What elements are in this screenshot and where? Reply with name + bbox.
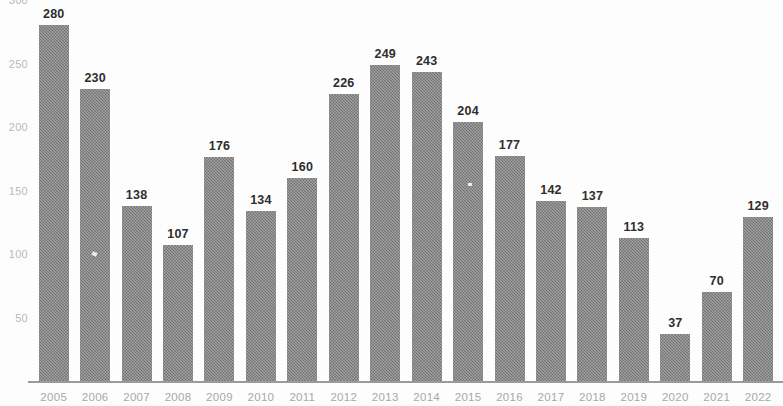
bar-slot: 160 (282, 0, 323, 381)
x-axis-tick: 2015 (447, 387, 488, 406)
bar (743, 217, 773, 381)
x-axis-tick-label: 2020 (662, 391, 689, 403)
bar-value-label: 37 (668, 317, 682, 330)
bar-slot: 204 (447, 0, 488, 381)
bar-series: 2802301381071761341602262492432041771421… (33, 0, 779, 381)
x-axis-tick: 2011 (282, 387, 323, 406)
bar-value-label: 138 (126, 189, 147, 202)
bar-value-label: 243 (416, 55, 437, 68)
bar-value-label: 70 (710, 275, 724, 288)
x-axis-tick: 2017 (530, 387, 571, 406)
x-axis-tick: 2007 (116, 387, 157, 406)
x-axis-tick: 2016 (489, 387, 530, 406)
y-axis-tick-label: 300 (9, 0, 28, 6)
bar-slot: 177 (489, 0, 530, 381)
bar-value-label: 176 (209, 140, 230, 153)
bar-value-label: 160 (292, 161, 313, 174)
x-axis-tick: 2021 (696, 387, 737, 406)
bar-value-label: 134 (250, 194, 271, 207)
bar-value-label: 226 (333, 77, 354, 90)
bar-slot: 243 (406, 0, 447, 381)
bar-chart: 30025020015010050 2802301381071761341602… (0, 0, 783, 406)
bar (122, 206, 152, 381)
bar-value-label: 280 (43, 8, 64, 21)
bar-slot: 138 (116, 0, 157, 381)
bar-value-label: 129 (747, 200, 768, 213)
y-axis: 30025020015010050 (0, 0, 32, 406)
x-axis-tick: 2005 (33, 387, 74, 406)
bar (370, 65, 400, 381)
bar-slot: 249 (365, 0, 406, 381)
x-axis-tick: 2018 (572, 387, 613, 406)
x-axis: 2005200620072008200920102011201220132014… (33, 387, 779, 406)
bar-slot: 226 (323, 0, 364, 381)
x-axis-tick-label: 2019 (620, 391, 647, 403)
bar (246, 211, 276, 381)
bar-slot: 113 (613, 0, 654, 381)
y-axis-tick-label: 100 (9, 249, 28, 260)
bar (453, 122, 483, 381)
bar (577, 207, 607, 381)
x-axis-tick-label: 2007 (123, 391, 150, 403)
y-axis-tick-label: 200 (9, 122, 28, 133)
x-axis-tick-label: 2021 (703, 391, 730, 403)
x-axis-tick-label: 2018 (579, 391, 606, 403)
bar (80, 89, 110, 381)
x-axis-tick-label: 2014 (413, 391, 440, 403)
x-axis-tick-label: 2005 (40, 391, 67, 403)
bar-slot: 70 (696, 0, 737, 381)
x-axis-tick-label: 2012 (330, 391, 357, 403)
bar (163, 245, 193, 381)
bar-slot: 230 (74, 0, 115, 381)
bar-value-label: 142 (540, 184, 561, 197)
bar-slot: 137 (572, 0, 613, 381)
bar (412, 72, 442, 381)
plot-area: 2802301381071761341602262492432041771421… (33, 0, 779, 381)
bar (495, 156, 525, 381)
x-axis-tick: 2010 (240, 387, 281, 406)
bar-slot: 142 (530, 0, 571, 381)
bar (39, 25, 69, 381)
bar-slot: 280 (33, 0, 74, 381)
x-axis-tick-label: 2015 (455, 391, 482, 403)
x-axis-tick: 2014 (406, 387, 447, 406)
bar-slot: 176 (199, 0, 240, 381)
bar-slot: 107 (157, 0, 198, 381)
x-axis-tick: 2022 (737, 387, 778, 406)
x-axis-tick: 2012 (323, 387, 364, 406)
x-axis-tick: 2008 (157, 387, 198, 406)
x-axis-tick-label: 2016 (496, 391, 523, 403)
bar-value-label: 113 (623, 221, 644, 234)
x-axis-tick-label: 2011 (289, 391, 315, 403)
x-axis-tick: 2009 (199, 387, 240, 406)
x-axis-tick-label: 2010 (248, 391, 275, 403)
bar (702, 292, 732, 381)
x-axis-tick: 2013 (365, 387, 406, 406)
x-axis-tick-label: 2017 (538, 391, 565, 403)
bar-value-label: 249 (374, 48, 395, 61)
x-axis-tick: 2006 (74, 387, 115, 406)
x-axis-tick-label: 2008 (165, 391, 192, 403)
bar-slot: 129 (737, 0, 778, 381)
bar (619, 238, 649, 382)
bar (329, 94, 359, 381)
x-axis-tick-label: 2006 (82, 391, 109, 403)
y-axis-tick-label: 50 (15, 312, 28, 323)
bar-slot: 37 (655, 0, 696, 381)
bar (536, 201, 566, 381)
bar-value-label: 107 (167, 228, 188, 241)
bar-slot: 134 (240, 0, 281, 381)
bar (287, 178, 317, 381)
x-axis-tick: 2019 (613, 387, 654, 406)
bar (204, 157, 234, 381)
bar (660, 334, 690, 381)
x-axis-tick-label: 2009 (206, 391, 233, 403)
bar-value-label: 137 (582, 190, 603, 203)
x-axis-baseline (28, 381, 783, 383)
x-axis-tick: 2020 (655, 387, 696, 406)
y-axis-tick-label: 150 (9, 185, 28, 196)
x-axis-tick-label: 2022 (745, 391, 772, 403)
bar-value-label: 177 (499, 139, 520, 152)
y-axis-tick-label: 250 (9, 58, 28, 69)
bar-value-label: 204 (457, 105, 478, 118)
